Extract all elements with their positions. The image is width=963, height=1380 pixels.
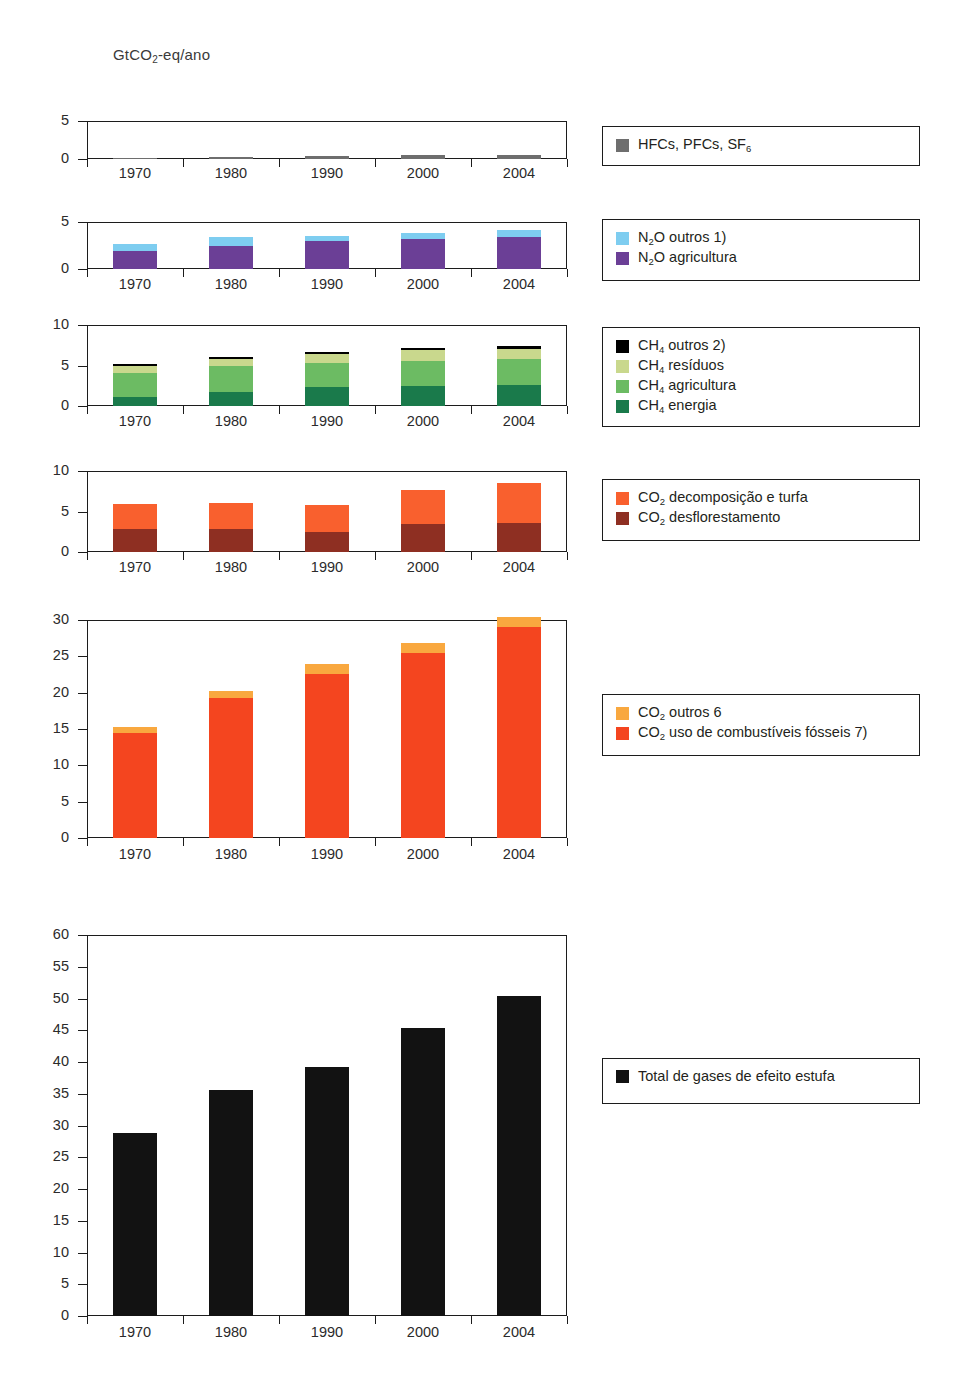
panel-total-y-tick: [78, 1316, 87, 1317]
panel-total-y-tick: [78, 935, 87, 936]
legend-label: CO2 decomposição e turfa: [638, 489, 808, 507]
panel-total-x-label-1980: 1980: [191, 1324, 271, 1340]
panel-total-y-tick: [78, 1253, 87, 1254]
panel-total-y-tick: [78, 1157, 87, 1158]
legend-label: CO2 desflorestamento: [638, 509, 780, 527]
panel-total-bar-1990: [305, 935, 349, 1316]
legend-item-co2_outros[interactable]: CO2 outros 6: [616, 704, 907, 722]
legend-swatch-icon: [616, 340, 629, 353]
panel-total-segment-total: [497, 996, 541, 1316]
panel-total-y-tick: [78, 999, 87, 1000]
panel-total-y-tick: [78, 1221, 87, 1222]
panel-total-y-label: 15: [25, 1212, 69, 1228]
panel-total-y-label: 20: [25, 1180, 69, 1196]
legend-item-n2o_agricultura[interactable]: N2O agricultura: [616, 249, 907, 267]
panel-total-y-tick: [78, 1284, 87, 1285]
panel-total-y-label: 50: [25, 990, 69, 1006]
legend-swatch-icon: [616, 492, 629, 505]
legend-item-co2_decomposicao[interactable]: CO2 decomposição e turfa: [616, 489, 907, 507]
legend-swatch-icon: [616, 380, 629, 393]
legend-swatch-icon: [616, 252, 629, 265]
legend-swatch-icon: [616, 727, 629, 740]
legend-label: CH4 resíduos: [638, 357, 724, 375]
panel-total: 0510152025303540455055601970198019902000…: [0, 0, 963, 1380]
panel-total-x-label-2000: 2000: [383, 1324, 463, 1340]
legend-item-ch4_outros[interactable]: CH4 outros 2): [616, 337, 907, 355]
panel-total-segment-total: [113, 1133, 157, 1317]
panel-ch4-legend: CH4 outros 2)CH4 resíduosCH4 agricultura…: [602, 327, 920, 427]
legend-item-hfc_pfc_sf6[interactable]: HFCs, PFCs, SF6: [616, 136, 907, 154]
panel-total-x-tick: [279, 1316, 280, 1324]
panel-total-legend: Total de gases de efeito estufa: [602, 1058, 920, 1104]
panel-total-y-label: 30: [25, 1117, 69, 1133]
panel-total-segment-total: [401, 1028, 445, 1316]
panel-total-y-label: 60: [25, 926, 69, 942]
panel-total-x-label-1970: 1970: [95, 1324, 175, 1340]
legend-item-n2o_outros[interactable]: N2O outros 1): [616, 229, 907, 247]
panel-co2-land-legend: CO2 decomposição e turfaCO2 desflorestam…: [602, 479, 920, 541]
panel-total-y-label: 45: [25, 1021, 69, 1037]
panel-total-x-tick: [375, 1316, 376, 1324]
panel-total-y-label: 0: [25, 1307, 69, 1323]
legend-label: CO2 outros 6: [638, 704, 721, 722]
panel-total-bar-2004: [497, 935, 541, 1316]
panel-total-y-tick: [78, 1030, 87, 1031]
legend-label: N2O outros 1): [638, 229, 726, 247]
panel-total-segment-total: [305, 1067, 349, 1316]
panel-total-bar-1980: [209, 935, 253, 1316]
panel-total-y-label: 10: [25, 1244, 69, 1260]
panel-total-y-tick: [78, 1094, 87, 1095]
panel-total-x-tick: [471, 1316, 472, 1324]
panel-total-bar-2000: [401, 935, 445, 1316]
panel-total-y-tick: [78, 1189, 87, 1190]
panel-total-x-label-1990: 1990: [287, 1324, 367, 1340]
panel-total-y-tick: [78, 1126, 87, 1127]
legend-swatch-icon: [616, 707, 629, 720]
legend-item-co2_desflorestamento[interactable]: CO2 desflorestamento: [616, 509, 907, 527]
panel-hfc-legend: HFCs, PFCs, SF6: [602, 126, 920, 166]
panel-total-y-tick: [78, 1062, 87, 1063]
panel-total-y-label: 35: [25, 1085, 69, 1101]
panel-total-y-label: 40: [25, 1053, 69, 1069]
panel-total-y-label: 5: [25, 1275, 69, 1291]
legend-item-total[interactable]: Total de gases de efeito estufa: [616, 1068, 907, 1084]
panel-total-bar-1970: [113, 935, 157, 1316]
panel-total-x-tick-origin: [87, 1316, 88, 1324]
legend-swatch-icon: [616, 400, 629, 413]
panel-total-x-label-2004: 2004: [479, 1324, 559, 1340]
panel-total-segment-total: [209, 1090, 253, 1316]
legend-label: N2O agricultura: [638, 249, 737, 267]
panel-total-y-tick: [78, 967, 87, 968]
legend-item-ch4_energia[interactable]: CH4 energia: [616, 397, 907, 415]
legend-item-ch4_residuos[interactable]: CH4 resíduos: [616, 357, 907, 375]
legend-item-ch4_agricultura[interactable]: CH4 agricultura: [616, 377, 907, 395]
panel-total-x-tick: [567, 1316, 568, 1324]
legend-swatch-icon: [616, 1070, 629, 1083]
chart-page: GtCO2-eq/ano 051970198019902000200405197…: [0, 0, 963, 1380]
legend-label: CH4 energia: [638, 397, 717, 415]
legend-label: HFCs, PFCs, SF6: [638, 136, 751, 154]
legend-item-co2_fosseis[interactable]: CO2 uso de combustíveis fósseis 7): [616, 724, 907, 742]
panel-total-x-tick: [183, 1316, 184, 1324]
legend-swatch-icon: [616, 139, 629, 152]
panel-n2o-legend: N2O outros 1)N2O agricultura: [602, 219, 920, 281]
legend-label: CO2 uso de combustíveis fósseis 7): [638, 724, 867, 742]
legend-label: CH4 agricultura: [638, 377, 736, 395]
legend-swatch-icon: [616, 232, 629, 245]
panel-total-y-label: 55: [25, 958, 69, 974]
legend-label: CH4 outros 2): [638, 337, 726, 355]
legend-swatch-icon: [616, 360, 629, 373]
legend-swatch-icon: [616, 512, 629, 525]
legend-label: Total de gases de efeito estufa: [638, 1068, 835, 1084]
panel-co2-fossil-legend: CO2 outros 6CO2 uso de combustíveis fóss…: [602, 694, 920, 756]
panel-total-y-label: 25: [25, 1148, 69, 1164]
